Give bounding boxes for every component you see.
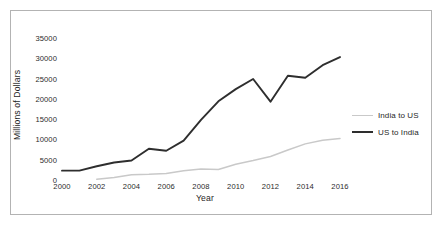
legend-item[interactable]: India to US [352, 108, 426, 122]
legend-label: India to US [378, 111, 419, 120]
legend-item[interactable]: US to India [352, 125, 426, 139]
chart-legend: India to USUS to India [352, 108, 426, 142]
line-chart: Millions of Dollars Year 050001000015000… [0, 0, 448, 234]
legend-label: US to India [378, 128, 419, 137]
legend-color-swatch [352, 115, 373, 116]
series-line [62, 57, 340, 171]
legend-color-swatch [352, 131, 373, 133]
